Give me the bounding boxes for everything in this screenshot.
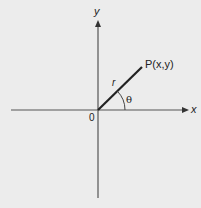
angle-arc — [117, 91, 125, 110]
origin-label: 0 — [89, 113, 95, 123]
x-axis-arrow-icon — [182, 107, 189, 113]
angle-label: θ — [126, 95, 132, 105]
x-axis-label: x — [191, 104, 197, 115]
diagram-canvas — [0, 0, 201, 208]
y-axis-label: y — [94, 6, 100, 17]
radius-line — [98, 67, 142, 110]
point-label: P(x,y) — [145, 59, 174, 70]
polar-coordinate-diagram: y x 0 P(x,y) r θ — [0, 0, 201, 208]
y-axis-arrow-icon — [95, 20, 101, 27]
radius-label: r — [112, 78, 115, 88]
